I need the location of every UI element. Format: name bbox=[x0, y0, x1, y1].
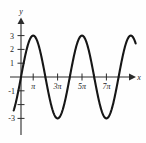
axis-group bbox=[10, 18, 136, 136]
x-tick-label-3pi: 3π bbox=[53, 82, 63, 91]
y-tick-label-2: 2 bbox=[10, 45, 14, 54]
x-axis-label: x bbox=[136, 73, 141, 82]
y-tick-label-3: 3 bbox=[10, 32, 14, 41]
y-tick-label-1: 1 bbox=[10, 59, 14, 68]
y-axis-label: y bbox=[18, 7, 23, 16]
plot-area: π 3π 5π 7π 3 2 1 -1 -3 x y bbox=[0, 6, 146, 143]
y-tick-label-neg1: -1 bbox=[8, 87, 15, 96]
y-axis-arrowhead bbox=[18, 18, 25, 25]
graph-svg: π 3π 5π 7π 3 2 1 -1 -3 x y bbox=[0, 6, 146, 143]
x-axis-arrowhead bbox=[129, 74, 136, 81]
x-tick-label-pi: π bbox=[31, 82, 36, 91]
figure-root: π 3π 5π 7π 3 2 1 -1 -3 x y bbox=[0, 0, 146, 143]
y-tick-label-neg3: -3 bbox=[8, 114, 15, 123]
x-tick-label-5pi: 5π bbox=[78, 82, 87, 91]
x-tick-label-group: π 3π 5π 7π bbox=[31, 82, 111, 91]
x-tick-label-7pi: 7π bbox=[102, 82, 111, 91]
